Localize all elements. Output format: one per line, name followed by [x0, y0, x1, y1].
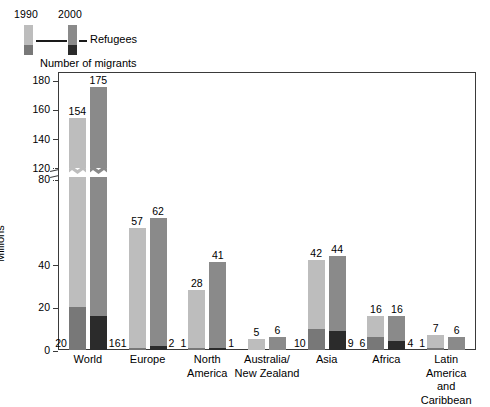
x-axis-category-line: North: [187, 353, 227, 367]
bar-value-label: 6: [275, 324, 281, 336]
x-axis-category-line: America: [187, 367, 227, 381]
x-axis-category-label: Asia: [316, 353, 337, 367]
y-axis-tick-label: 80: [38, 173, 50, 186]
y-axis-tick-label: 120: [32, 162, 50, 175]
bar-segment-refugees: [129, 348, 146, 350]
bar-refugee-value-label: 1: [419, 337, 425, 349]
bar-1990[interactable]: 571: [129, 228, 146, 350]
bar-value-label: 16: [391, 303, 403, 315]
x-axis-category-line: Europe: [130, 353, 165, 367]
bar-value-label: 7: [433, 322, 439, 334]
bar-group: 166164: [367, 72, 405, 350]
bar-series-container: 1542017516571622281411564210449166164716: [58, 72, 476, 350]
bar-value-label: 28: [191, 277, 203, 289]
x-axis-category-label: World: [74, 353, 103, 367]
bar-segment-refugees: [90, 316, 107, 350]
y-axis-tick-label: 40: [38, 259, 50, 272]
y-axis-tick-mark: [53, 351, 58, 352]
bar-1990[interactable]: 15420: [69, 118, 86, 350]
bar-segment-refugees: [150, 346, 167, 350]
legend-year-row: 1990 2000: [14, 8, 134, 22]
x-axis-category-line: World: [74, 353, 103, 367]
bar-2000[interactable]: 17516: [90, 87, 107, 350]
x-axis-category-label: Europe: [130, 353, 165, 367]
bar-group: 1542017516: [69, 72, 107, 350]
bar-refugee-value-label: 1: [228, 337, 234, 349]
bar-segment-refugees: [209, 348, 226, 350]
legend-year-2000: 2000: [58, 8, 82, 20]
bar-2000[interactable]: 411: [209, 262, 226, 350]
bar-segment-refugees: [329, 331, 346, 350]
bar-value-label: 154: [69, 105, 87, 117]
bar-refugee-value-label: 1: [121, 337, 127, 349]
bar-value-label: 44: [331, 243, 343, 255]
bar-segment-refugees: [188, 348, 205, 350]
legend-refugees-label: Refugees: [90, 33, 137, 46]
bar-refugee-value-label: 9: [348, 337, 354, 349]
bar-value-label: 16: [370, 303, 382, 315]
bar-1990[interactable]: 71: [427, 335, 444, 350]
bar-2000[interactable]: 6: [448, 337, 465, 350]
bar-group: 716: [427, 72, 465, 350]
bar-2000[interactable]: 6: [269, 337, 286, 350]
bar-break-icon: [89, 168, 108, 177]
bar-value-label: 5: [254, 326, 260, 338]
legend-swatch-2000-refugees: [68, 45, 77, 55]
bar-value-label: 175: [90, 74, 108, 86]
bar-group: 4210449: [308, 72, 346, 350]
x-axis-category-label: Australia/New Zealand: [235, 353, 300, 380]
bar-refugee-value-label: 16: [109, 337, 121, 349]
bar-refugee-value-label: 1: [180, 337, 186, 349]
bar-2000[interactable]: 449: [329, 256, 346, 350]
bar-value-label: 42: [310, 247, 322, 259]
bar-group: 571622: [129, 72, 167, 350]
bar-refugee-value-label: 20: [55, 337, 67, 349]
x-axis-category-line: Africa: [372, 353, 400, 367]
legend-swatch-2000-migrants: [68, 25, 77, 45]
x-axis-category-label: Latin Americaand Caribbean: [421, 353, 472, 407]
bar-segment-refugees: [367, 337, 384, 350]
bar-value-label: 62: [152, 205, 164, 217]
y-axis-tick-label: 180: [32, 74, 50, 87]
bar-2000[interactable]: 164: [388, 316, 405, 350]
bar-group: 281411: [188, 72, 226, 350]
bar-group: 56: [248, 72, 286, 350]
bar-refugee-value-label: 10: [294, 337, 306, 349]
bar-1990[interactable]: 5: [248, 339, 265, 350]
y-axis-tick-label: 160: [32, 103, 50, 116]
bar-1990[interactable]: 281: [188, 290, 205, 350]
x-axis-category-line: and Caribbean: [421, 380, 472, 407]
chart-legend: 1990 2000 Refugees Number of migrants: [14, 8, 214, 68]
x-axis-category-line: Latin America: [421, 353, 472, 380]
x-axis-category-label: NorthAmerica: [187, 353, 227, 380]
bar-value-label: 41: [212, 249, 224, 261]
bar-refugee-value-label: 2: [169, 337, 175, 349]
bar-refugee-value-label: 4: [407, 337, 413, 349]
y-axis-tick-label: 0: [44, 344, 50, 357]
x-axis-category-line: Asia: [316, 353, 337, 367]
legend-migrants-label: Number of migrants: [40, 57, 137, 70]
bar-segment-refugees: [427, 348, 444, 350]
y-axis-title: Millions: [0, 225, 6, 262]
bar-value-label: 57: [131, 215, 143, 227]
x-axis-category-line: Australia/: [235, 353, 300, 367]
legend-swatch-1990: [24, 25, 33, 55]
bar-break-icon: [68, 168, 87, 177]
legend-swatch-1990-migrants: [24, 25, 33, 45]
legend-leader-dash: [79, 40, 87, 42]
bar-2000[interactable]: 622: [150, 218, 167, 351]
y-axis-tick-label: 20: [38, 301, 50, 314]
x-axis-category-labels: WorldEuropeNorthAmericaAustralia/New Zea…: [58, 353, 476, 386]
bar-1990[interactable]: 166: [367, 316, 384, 350]
bar-segment-refugees: [69, 307, 86, 350]
bar-segment-refugees: [308, 329, 325, 350]
bar-value-label: 6: [454, 324, 460, 336]
legend-connector-line: [36, 40, 67, 42]
y-axis: Millions 0204080120140160180: [0, 72, 58, 351]
bar-1990[interactable]: 4210: [308, 260, 325, 350]
legend-swatch-2000: [68, 25, 77, 55]
legend-year-1990: 1990: [14, 8, 38, 20]
x-axis-category-line: New Zealand: [235, 367, 300, 381]
x-axis-category-label: Africa: [372, 353, 400, 367]
